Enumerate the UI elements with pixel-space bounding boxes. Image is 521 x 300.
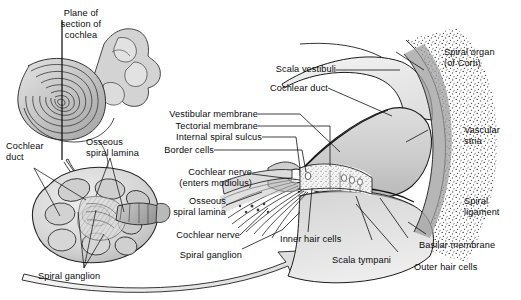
label-outer-hair-cells: Outer hair cells bbox=[414, 262, 477, 273]
label-plane-of-section-line3: cochlea bbox=[48, 30, 114, 41]
label-basilar-membrane: Basilar membrane bbox=[419, 240, 495, 251]
cochlea-illustration bbox=[0, 0, 521, 300]
label-vascular-stria-line1: Vascular bbox=[464, 125, 500, 136]
inner-hair-cell bbox=[305, 172, 311, 179]
label-cochlear-duct-left-line1: Cochlear bbox=[6, 141, 44, 152]
label-spiral-organ-line1: Spiral organ bbox=[444, 47, 495, 58]
label-plane-of-section-line2: section of bbox=[48, 19, 114, 30]
figure-canvas: Plane of section of cochlea Cochlear duc… bbox=[0, 0, 521, 300]
label-plane-of-section-line1: Plane of bbox=[48, 8, 114, 19]
label-scala-vestibuli: Scala vestibuli bbox=[236, 64, 336, 75]
label-osseous-spiral-lamina-left-line1: Osseous bbox=[86, 137, 123, 148]
label-osseous-spiral-lamina-left-line2: spiral lamina bbox=[86, 148, 139, 159]
label-spiral-ligament-line1: Spiral bbox=[464, 196, 488, 207]
label-spiral-ligament-line2: ligament bbox=[464, 207, 500, 218]
label-internal-spiral-sulcus: Internal spiral sulcus bbox=[148, 132, 262, 143]
label-tectorial-membrane: Tectorial membrane bbox=[148, 121, 258, 132]
label-inner-hair-cells: Inner hair cells bbox=[280, 234, 341, 245]
label-spiral-ganglion-left: Spiral ganglion bbox=[38, 271, 100, 282]
label-vascular-stria-line2: stria bbox=[464, 136, 482, 147]
label-vestibular-membrane: Vestibular membrane bbox=[148, 109, 258, 120]
label-scala-tympani: Scala tympani bbox=[332, 255, 391, 266]
label-osseous-spiral-lamina-mid-line1: Osseous bbox=[148, 196, 226, 207]
label-spiral-ganglion-mid: Spiral ganglion bbox=[148, 250, 242, 261]
label-cochlear-nerve-modiolus-line1: Cochlear nerve bbox=[148, 167, 252, 178]
label-osseous-spiral-lamina-mid-line2: spiral lamina bbox=[148, 207, 226, 218]
label-spiral-organ-line2: (of Corti) bbox=[444, 58, 481, 69]
label-cochlear-nerve-modiolus-line2: (enters modiolus) bbox=[148, 178, 252, 189]
label-cochlear-duct-top: Cochlear duct bbox=[236, 83, 328, 94]
label-cochlear-nerve: Cochlear nerve bbox=[148, 230, 240, 241]
label-border-cells: Border cells bbox=[148, 145, 214, 156]
label-cochlear-duct-left-line2: duct bbox=[6, 152, 24, 163]
